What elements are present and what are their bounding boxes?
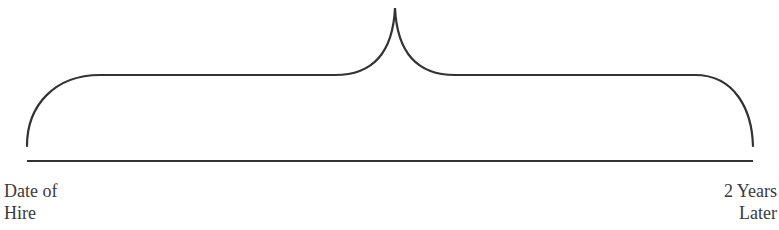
curly-brace [27, 8, 753, 146]
end-label-line2: Later [724, 202, 777, 224]
start-label-line1: Date of [4, 180, 57, 202]
timeline-diagram [0, 0, 779, 230]
end-label: 2 Years Later [724, 180, 777, 224]
end-label-line1: 2 Years [724, 180, 777, 202]
start-label-line2: Hire [4, 202, 57, 224]
start-label: Date of Hire [4, 180, 57, 224]
